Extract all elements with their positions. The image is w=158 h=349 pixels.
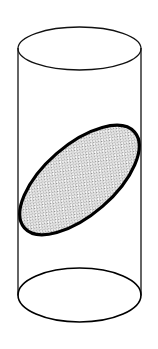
cylinder-cross-section-figure: Cylinder with oblique elliptical cross-s…: [0, 0, 158, 349]
figure-container: Cylinder with oblique elliptical cross-s…: [0, 0, 158, 349]
